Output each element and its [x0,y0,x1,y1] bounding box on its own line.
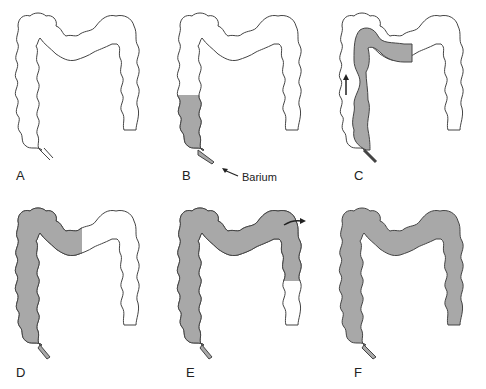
colon-diagram-full [324,195,486,389]
colon-diagram-rectum-filled [162,0,324,194]
barium-annotation: Barium [242,171,277,183]
panel-e: E [162,195,324,389]
colon-diagram-empty [0,0,162,194]
colon-diagram-half-fill [0,195,162,389]
panel-label: B [182,168,191,183]
panel-label: A [16,168,25,183]
panel-label: D [16,365,25,380]
colon-diagram-near-full [162,195,324,389]
panel-b: B Barium [162,0,324,194]
panel-f: F [324,195,486,389]
panel-label: E [186,365,195,380]
panel-label: F [354,365,362,380]
panel-label: C [354,168,363,183]
panel-c: C [324,0,486,194]
colon-diagram-partial-fill [324,0,486,194]
panel-d: D [0,195,162,389]
panel-a: A [0,0,162,194]
